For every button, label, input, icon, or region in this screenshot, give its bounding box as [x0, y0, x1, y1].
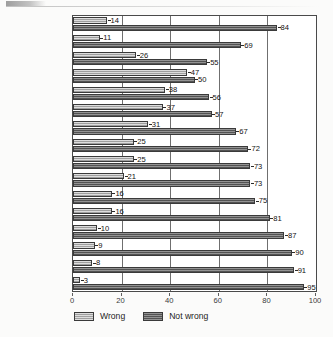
bar-wrong-hungary [73, 208, 112, 214]
value-label-notwrong-iceland: 95 [307, 284, 315, 292]
legend-swatch-wrong [74, 312, 94, 321]
chart-row: Spain2173 [73, 172, 316, 189]
bar-notwrong-united-states [73, 77, 195, 83]
chart-row: Thailand3757 [73, 103, 316, 120]
value-label-notwrong-united-states: 50 [198, 76, 206, 84]
axis-tick-label-20: 20 [116, 296, 124, 305]
value-label-wrong-iceland: 3 [84, 277, 88, 285]
bar-notwrong-singapore [73, 42, 241, 48]
bar-notwrong-india [73, 25, 277, 31]
bar-notwrong-thailand [73, 111, 212, 117]
bar-wrong-thailand [73, 104, 163, 110]
value-label-wrong-great-britain: 25 [137, 156, 145, 164]
bar-wrong-mexico [73, 121, 148, 127]
axis-tick-label-100: 100 [309, 296, 322, 305]
value-label-wrong-thailand: 37 [166, 104, 174, 112]
axis-tick-label-0: 0 [70, 296, 74, 305]
bar-wrong-great-britain [73, 156, 134, 162]
bar-wrong-united-states [73, 69, 187, 75]
legend-label-wrong: Wrong [100, 311, 125, 321]
value-label-notwrong-canada: 72 [251, 145, 259, 153]
value-label-notwrong-singapore: 69 [244, 42, 252, 50]
value-label-wrong-singapore: 11 [103, 34, 111, 42]
value-label-notwrong-guatemala: 56 [213, 94, 221, 102]
bar-wrong-germany [73, 242, 95, 248]
chart-row: Singapore1169 [73, 33, 316, 50]
bar-wrong-colombia [73, 225, 97, 231]
value-label-wrong-germany: 9 [98, 242, 102, 250]
chart-row: United States4750 [73, 68, 316, 85]
chart-row: Canada2572 [73, 137, 316, 154]
bar-notwrong-spain [73, 180, 250, 186]
chart-row: Mexico3167 [73, 120, 316, 137]
bar-notwrong-iceland [73, 284, 304, 290]
value-label-notwrong-great-britain: 73 [254, 163, 262, 171]
axis-tick-label-40: 40 [165, 296, 173, 305]
bar-notwrong-france [73, 267, 294, 273]
chart-row: Taiwan2655 [73, 51, 316, 68]
chart-row: Iceland395 [73, 276, 316, 293]
axis-tick-label-60: 60 [214, 296, 222, 305]
bar-wrong-taiwan [73, 52, 136, 58]
value-label-notwrong-mexico: 67 [239, 128, 247, 136]
bar-chart: India1484Singapore1169Taiwan2655United S… [0, 0, 333, 337]
value-label-wrong-guatemala: 38 [169, 86, 177, 94]
bar-wrong-singapore [73, 35, 100, 41]
value-label-notwrong-thailand: 57 [215, 111, 223, 119]
bar-notwrong-lithuania [73, 198, 255, 204]
bar-notwrong-hungary [73, 215, 270, 221]
bar-wrong-canada [73, 139, 134, 145]
value-label-notwrong-hungary: 81 [273, 215, 281, 223]
plot-area: India1484Singapore1169Taiwan2655United S… [72, 15, 317, 292]
value-label-wrong-colombia: 10 [101, 225, 109, 233]
bar-notwrong-canada [73, 146, 248, 152]
value-label-notwrong-lithuania: 75 [259, 197, 267, 205]
bar-wrong-spain [73, 173, 124, 179]
chart-row: Guatemala3856 [73, 85, 316, 102]
value-label-wrong-india: 14 [111, 17, 119, 25]
value-label-wrong-spain: 21 [128, 173, 136, 181]
chart-row: France891 [73, 258, 316, 275]
value-label-wrong-canada: 25 [137, 138, 145, 146]
bar-notwrong-colombia [73, 232, 284, 238]
bar-wrong-guatemala [73, 87, 165, 93]
value-label-notwrong-germany: 90 [295, 249, 303, 257]
value-label-wrong-mexico: 31 [152, 121, 160, 129]
chart-row: Germany990 [73, 241, 316, 258]
bar-notwrong-taiwan [73, 59, 207, 65]
bar-wrong-france [73, 260, 92, 266]
legend-item-not-wrong: Not wrong [143, 311, 208, 321]
value-label-wrong-france: 8 [96, 259, 100, 267]
chart-legend: Wrong Not wrong [74, 311, 208, 321]
bar-notwrong-mexico [73, 128, 236, 134]
value-label-notwrong-colombia: 87 [288, 232, 296, 240]
chart-row: Colombia1087 [73, 224, 316, 241]
bar-wrong-india [73, 17, 107, 23]
x-axis: 020406080100 [72, 293, 317, 307]
legend-item-wrong: Wrong [74, 311, 125, 321]
value-label-notwrong-france: 91 [298, 267, 306, 275]
axis-tick-label-80: 80 [262, 296, 270, 305]
legend-label-not-wrong: Not wrong [169, 311, 208, 321]
value-label-notwrong-india: 84 [281, 24, 289, 32]
value-label-wrong-hungary: 16 [115, 208, 123, 216]
bar-notwrong-guatemala [73, 94, 209, 100]
value-label-notwrong-taiwan: 55 [210, 59, 218, 67]
chart-row: India1484 [73, 16, 316, 33]
bar-wrong-lithuania [73, 191, 112, 197]
chart-row: Great Britain2573 [73, 155, 316, 172]
bar-wrong-iceland [73, 277, 80, 283]
chart-row: Hungary1681 [73, 206, 316, 223]
value-label-wrong-lithuania: 16 [115, 190, 123, 198]
value-label-wrong-taiwan: 26 [140, 52, 148, 60]
bar-notwrong-great-britain [73, 163, 250, 169]
bar-notwrong-germany [73, 250, 292, 256]
value-label-notwrong-spain: 73 [254, 180, 262, 188]
chart-row: Lithuania1675 [73, 189, 316, 206]
legend-swatch-not-wrong [143, 312, 163, 321]
